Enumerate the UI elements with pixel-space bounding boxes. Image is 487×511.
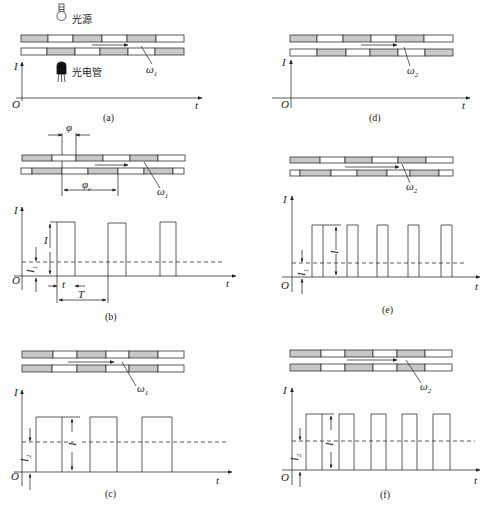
- y-axis-label: I: [282, 193, 288, 205]
- panel-d: [272, 35, 470, 108]
- caption-a: (a): [103, 112, 114, 124]
- phi-label: φ: [66, 121, 72, 133]
- panel-f: [282, 350, 480, 487]
- light-source-icon: [57, 4, 66, 21]
- current-waveform: [57, 222, 176, 276]
- panel-c: [14, 351, 232, 490]
- phototube-label: 光电管: [72, 66, 102, 78]
- current-waveform: [306, 414, 450, 470]
- I1-label: I1: [295, 269, 310, 277]
- panel-e: [282, 157, 480, 294]
- origin-label: O: [281, 279, 289, 291]
- omega1-label: ω1: [137, 382, 148, 397]
- labels: 光源 光电管 ω1 I O t (a) φ φc ω1 I I I1 O t T…: [11, 13, 479, 501]
- omega1-label: ω1: [157, 185, 168, 200]
- disc-strip-bottom: [21, 168, 184, 174]
- pulse-width-label: t: [62, 278, 66, 290]
- amplitude-label: I: [43, 234, 49, 246]
- origin-label: O: [12, 98, 20, 110]
- caption-d: (d): [369, 112, 381, 124]
- caption-c: (c): [105, 488, 116, 500]
- disc-strip-top: [290, 157, 453, 163]
- x-axis-label: t: [226, 277, 230, 289]
- y-axis-label: I: [13, 60, 19, 72]
- I2-label: I2: [18, 454, 33, 463]
- caption-f: (f): [380, 489, 390, 501]
- origin-label: O: [281, 98, 289, 110]
- period-label: T: [78, 288, 85, 300]
- origin-label: O: [11, 470, 19, 482]
- disc-strip-bottom: [290, 49, 453, 56]
- omega-leader: [406, 360, 421, 383]
- phototube-icon: [57, 62, 66, 82]
- y-axis-label: I: [282, 384, 288, 396]
- disc-strip-top: [21, 35, 184, 42]
- current-waveform: [36, 417, 172, 472]
- panel-a: [16, 4, 202, 101]
- disc-strip-top: [290, 350, 452, 357]
- caption-e: (e): [382, 304, 393, 316]
- disc-strip-top: [22, 351, 184, 358]
- x-axis-label: t: [195, 99, 199, 111]
- disc-strip-top: [22, 155, 185, 161]
- x-axis-label: t: [474, 474, 478, 486]
- amplitude-label: I: [323, 441, 335, 447]
- amplitude-label: I: [328, 249, 340, 255]
- panel-b: [14, 133, 236, 303]
- x-axis-label: t: [462, 99, 466, 111]
- disc-strip-bottom: [21, 48, 184, 55]
- I2-label: I2: [288, 453, 303, 462]
- disc-strip-bottom: [22, 365, 184, 372]
- disc-strip-bottom: [290, 364, 452, 371]
- diagram-canvas: 光源 光电管 ω1 I O t (a) φ φc ω1 I I I1 O t T…: [0, 0, 487, 511]
- disc-strip-top: [290, 35, 453, 42]
- y-axis-label: I: [281, 56, 287, 68]
- origin-label: O: [12, 274, 20, 286]
- phi-c-label: φc: [82, 178, 92, 193]
- y-axis-label: I: [13, 204, 19, 216]
- I1-label: I1: [24, 266, 39, 274]
- origin-label: O: [281, 471, 289, 483]
- omega2-label: ω2: [406, 180, 418, 195]
- light-source-label: 光源: [72, 13, 92, 25]
- omega2-label: ω2: [420, 380, 432, 395]
- x-axis-label: t: [216, 474, 220, 486]
- omega2-label: ω2: [407, 64, 419, 79]
- caption-b: (b): [105, 311, 117, 323]
- y-axis-label: I: [13, 386, 19, 398]
- omega1-label: ω1: [146, 63, 157, 78]
- x-axis-label: t: [475, 280, 479, 292]
- disc-strip-bottom: [290, 170, 453, 176]
